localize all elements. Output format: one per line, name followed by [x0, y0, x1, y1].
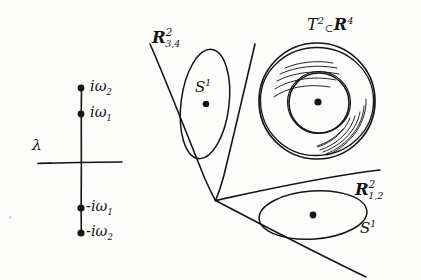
- lower-plane-superscript: 2: [369, 179, 376, 190]
- ambient-space-symbol: R: [334, 15, 347, 34]
- eigenvalue-sub-minus-iw1: 1: [107, 207, 112, 217]
- upper-plane-symbol: R: [152, 28, 166, 47]
- eigenvalue-label-iw2: iω2: [90, 79, 112, 96]
- lower-orbit-center-dot: [310, 212, 317, 219]
- subset-symbol: ⊂: [324, 22, 334, 34]
- lambda-label: λ: [32, 138, 42, 154]
- eigenvalue-text-minus-iw2: -iω: [86, 223, 107, 239]
- eigenvalue-text-iw2: iω: [90, 78, 106, 94]
- upper-orbit-label: S1: [195, 78, 211, 95]
- upper-plane-edge-left: [150, 44, 216, 201]
- lower-orbit-label: S1: [360, 219, 376, 236]
- lower-plane-subscript: 1,2: [368, 190, 383, 201]
- diagram-drawing: [0, 0, 421, 280]
- upper-orbit-superscript: 1: [205, 77, 211, 88]
- eigenvalue-sub-iw2: 2: [106, 87, 111, 97]
- eigenvalue-text-iw1: iω: [90, 104, 106, 120]
- upper-orbit-symbol: S: [195, 78, 205, 96]
- eigenvalue-dot-minus-iw1: [77, 204, 84, 211]
- lower-orbit-superscript: 1: [370, 218, 376, 229]
- eigenvalue-dot-iw1: [78, 111, 85, 118]
- lower-orbit-symbol: S: [360, 219, 370, 237]
- eigenvalue-dot-iw2: [78, 85, 85, 92]
- eigenvalue-sub-iw1: 1: [106, 113, 111, 123]
- upper-plane-superscript: 2: [166, 27, 173, 38]
- upper-plane-edge-right: [216, 44, 256, 201]
- eigenvalue-label-minus-iw1: -iω1: [86, 199, 113, 216]
- eigenvalue-text-minus-iw1: -iω: [86, 198, 107, 214]
- eigenvalue-label-minus-iw2: -iω2: [86, 224, 113, 241]
- eigenvalue-dot-minus-iw2: [77, 229, 84, 236]
- figure-canvas: λ iω2 iω1 -iω1 -iω2 R23,4 S1 T2⊂R4 R21,2…: [0, 0, 421, 280]
- upper-orbit-center-dot: [203, 101, 210, 108]
- torus-label: T2⊂R4: [307, 16, 353, 33]
- torus-symbol: T: [307, 15, 318, 34]
- lower-plane-symbol: R: [355, 180, 369, 199]
- torus-center-dot: [314, 98, 321, 105]
- lower-plane-label: R21,2: [355, 180, 383, 200]
- upper-plane-label: R23,4: [152, 28, 180, 48]
- ambient-space-superscript: 4: [347, 15, 353, 26]
- eigenvalue-sub-minus-iw2: 2: [107, 232, 112, 242]
- eigenvalue-label-iw1: iω1: [90, 105, 112, 122]
- upper-plane-subscript: 3,4: [165, 38, 180, 49]
